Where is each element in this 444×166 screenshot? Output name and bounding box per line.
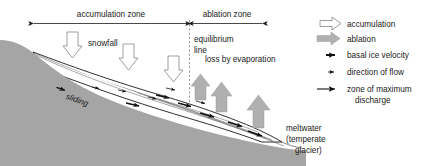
- legend-label-zone-of-maximum-discharge: zone of maximum: [347, 85, 412, 94]
- legend-item-ablation: ablation: [317, 32, 376, 45]
- legend-label-accumulation: accumulation: [347, 20, 396, 29]
- snowfall-label: snowfall: [88, 39, 118, 48]
- ablation-zone-label: ablation zone: [203, 10, 252, 19]
- accumulation-zone-label: accumulation zone: [77, 10, 146, 19]
- meltwater-label-row1: meltwater: [286, 124, 322, 133]
- legend-item-zone-of-maximum-discharge: zone of maximum discharge: [317, 85, 412, 105]
- accumulation-zone-dimension: accumulation zone: [34, 10, 188, 24]
- meltwater-label-row3: glacier): [295, 146, 322, 155]
- snowfall-down-arrow-icon: [63, 32, 82, 58]
- snowfall-down-arrow-icon: [164, 56, 183, 82]
- legend-label-ablation: ablation: [347, 35, 376, 44]
- legend: accumulation ablation basal ice velocity…: [317, 17, 412, 105]
- legend-label-direction-of-flow: direction of flow: [347, 68, 404, 77]
- equilibrium-line-label-row1: equilibrium: [194, 35, 234, 44]
- legend-label-basal-ice-velocity: basal ice velocity: [347, 51, 410, 60]
- ablation-up-arrow-icon: [191, 74, 210, 100]
- legend-label-zone-of-maximum-discharge-row2: discharge: [355, 96, 391, 105]
- direction-of-flow-arrow-icon: [166, 88, 175, 90]
- filled-block-arrow-right-icon: [317, 32, 340, 45]
- legend-item-direction-of-flow: direction of flow: [328, 68, 404, 77]
- loss-by-evaporation-label: loss by evaporation: [205, 55, 276, 64]
- legend-item-basal-ice-velocity: basal ice velocity: [326, 51, 410, 60]
- diagram-canvas: accumulation zone ablation zone equilibr…: [0, 0, 444, 166]
- ablation-up-arrow-icon: [211, 82, 232, 112]
- ablation-zone-dimension: ablation zone: [191, 10, 262, 24]
- basal-ice-velocity-arrow-icon: [126, 103, 139, 106]
- hollow-block-arrow-right-icon: [320, 17, 341, 30]
- ablation-up-arrow-icon: [247, 95, 270, 128]
- equilibrium-line-label-row2: line: [194, 46, 207, 55]
- legend-item-accumulation: accumulation: [320, 17, 396, 30]
- glacier-diagram-figure: accumulation zone ablation zone equilibr…: [0, 0, 444, 166]
- snowfall-down-arrow-icon: [119, 44, 138, 70]
- meltwater-label-row2: (temperate: [286, 135, 326, 144]
- direction-of-flow-arrow-icon: [196, 101, 205, 104]
